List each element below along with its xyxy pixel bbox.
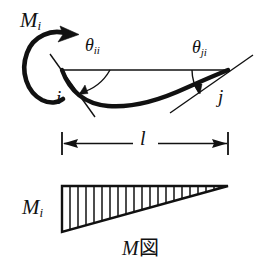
- theta-ji-symbol: θ: [192, 37, 201, 57]
- figure-caption: M図: [122, 238, 159, 258]
- dimension-arrowhead-left: [63, 139, 78, 148]
- applied-moment-label-subscript: i: [38, 18, 42, 33]
- span-length-label: l: [140, 128, 146, 148]
- node-i-label: i: [56, 88, 61, 107]
- theta-ii-subscript: ii: [94, 44, 100, 56]
- theta-ii-arrowhead: [79, 85, 88, 95]
- applied-moment-label-symbol: M: [20, 8, 38, 32]
- moment-diagram-label: Mi: [22, 197, 43, 218]
- bending-moment-diagram: [62, 186, 228, 232]
- caption-word: 図: [139, 236, 159, 260]
- moment-triangle-outline: [62, 186, 228, 232]
- caption-symbol: M: [122, 237, 139, 259]
- theta-ji-arrowhead: [193, 84, 202, 94]
- angle-arc-theta-ii: [79, 70, 110, 95]
- tangent-line-at-j: [170, 55, 253, 113]
- moment-diagram-label-symbol: M: [22, 195, 40, 219]
- slope-deflection-figure: Mi θii θji i j l Mi M図: [0, 0, 273, 268]
- deflected-beam-curve: [62, 70, 228, 106]
- moment-arrow-arc: [24, 32, 68, 103]
- dimension-arrowhead-right: [212, 139, 227, 148]
- theta-ji-subscript: ji: [201, 46, 207, 58]
- theta-ii-symbol: θ: [85, 35, 94, 55]
- theta-ii-label: θii: [85, 36, 100, 54]
- node-j-label: j: [218, 87, 223, 106]
- applied-moment-arrow: [24, 26, 79, 103]
- figure-drawing: [0, 0, 273, 268]
- theta-ji-label: θji: [192, 38, 207, 56]
- moment-diagram-label-subscript: i: [40, 205, 44, 220]
- applied-moment-label: Mi: [20, 10, 41, 31]
